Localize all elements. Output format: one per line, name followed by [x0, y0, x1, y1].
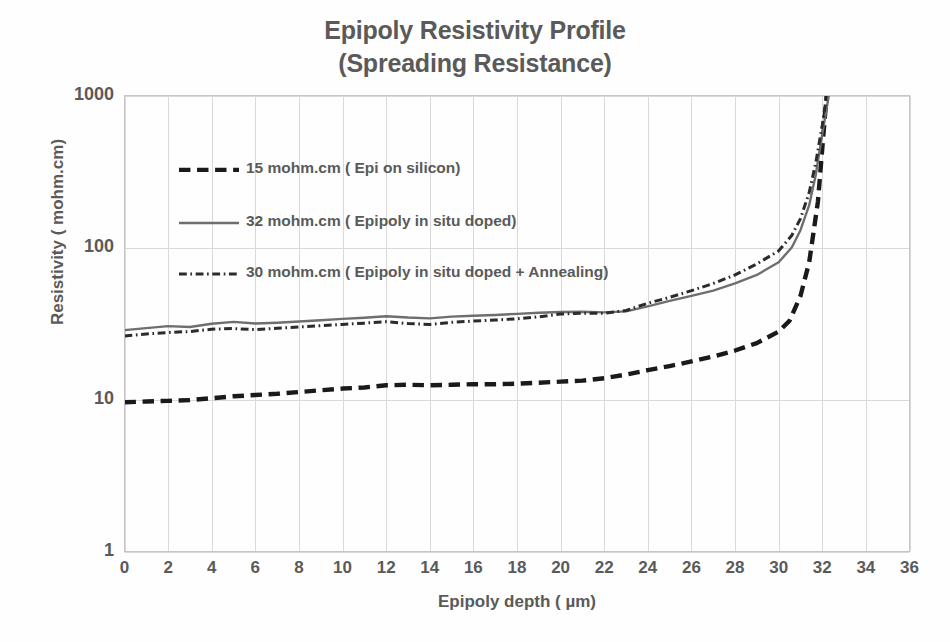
x-tick-label: 24 [628, 558, 668, 578]
x-tick-label: 36 [890, 558, 930, 578]
x-tick-label: 2 [148, 558, 188, 578]
x-tick-label: 14 [410, 558, 450, 578]
plot-area [0, 0, 950, 642]
legend-marker-dashed [178, 167, 240, 172]
x-tick-label: 26 [671, 558, 711, 578]
x-tick-label: 0 [105, 558, 145, 578]
x-tick-label: 12 [366, 558, 406, 578]
legend-marker-solid [178, 220, 240, 225]
chart-figure: Epipoly Resistivity Profile (Spreading R… [0, 0, 950, 642]
y-tick-label: 1000 [50, 84, 114, 105]
legend-marker-dashdot [178, 271, 240, 276]
legend-label: 15 mohm.cm ( Epi on silicon) [246, 159, 460, 177]
legend-label: 30 mohm.cm ( Epipoly in situ doped + Ann… [246, 263, 608, 281]
x-tick-label: 30 [759, 558, 799, 578]
x-axis-label: Epipoly depth ( µm) [124, 592, 910, 612]
x-tick-label: 28 [715, 558, 755, 578]
x-tick-label: 4 [192, 558, 232, 578]
x-tick-label: 10 [323, 558, 363, 578]
x-tick-label: 6 [235, 558, 275, 578]
grid-layer [125, 96, 911, 553]
y-tick-label: 10 [50, 388, 114, 409]
x-tick-label: 20 [541, 558, 581, 578]
x-tick-label: 16 [453, 558, 493, 578]
x-tick-label: 22 [584, 558, 624, 578]
x-tick-label: 34 [846, 558, 886, 578]
x-tick-label: 18 [497, 558, 537, 578]
x-tick-label: 8 [279, 558, 319, 578]
legend-label: 32 mohm.cm ( Epipoly in situ doped) [246, 212, 516, 230]
x-tick-label: 32 [802, 558, 842, 578]
y-axis-label: Resistivity ( mohm.cm) [48, 112, 68, 352]
